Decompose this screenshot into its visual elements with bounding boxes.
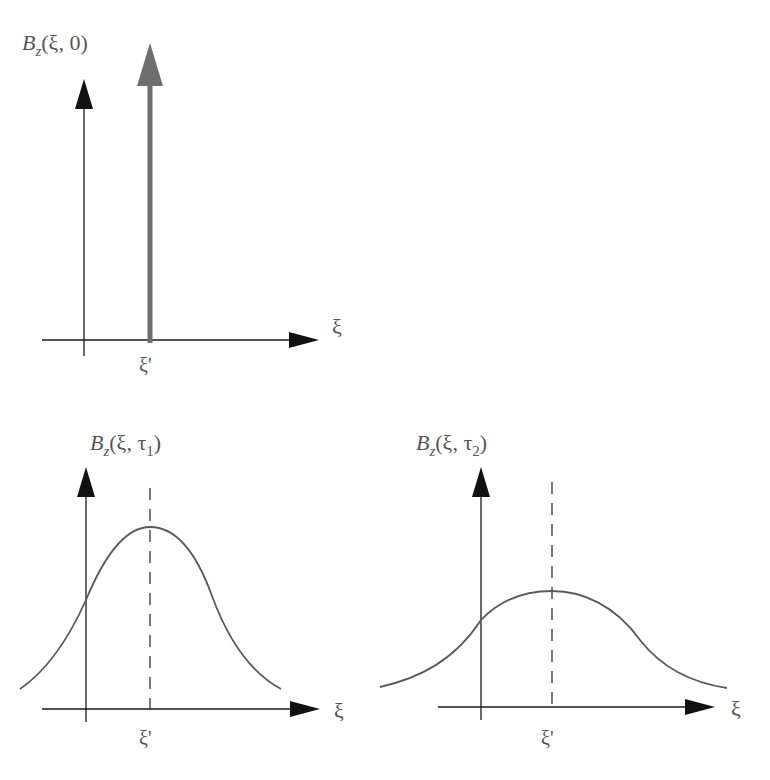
panel-tau1-ylabel: Bz(ξ, τ1) <box>90 430 161 459</box>
x-axis-label: ξ <box>731 696 741 721</box>
y-axis-arrowhead-icon <box>472 467 490 497</box>
panel-tau1: Bz(ξ, τ1) ξ ξ' <box>20 430 344 749</box>
x-axis-arrowhead-icon <box>290 701 320 717</box>
ylabel-time: τ <box>463 430 472 455</box>
panel-initial: Bz(ξ, 0) ξ ξ' <box>22 30 342 376</box>
delta-spike-arrowhead-icon <box>137 43 163 86</box>
ylabel-args: (ξ, <box>109 430 137 455</box>
y-axis-arrowhead-icon <box>77 467 95 497</box>
ylabel-time: τ <box>137 430 146 455</box>
ylabel-args: (ξ, <box>435 430 463 455</box>
panel-tau2: Bz(ξ, τ2) ξ ξ' <box>380 430 741 749</box>
panel-initial-ylabel: Bz(ξ, 0) <box>22 30 88 59</box>
ylabel-symbol: B <box>416 430 429 455</box>
ylabel-time: 0 <box>69 30 80 55</box>
ylabel-symbol: B <box>22 30 35 55</box>
x-axis-label: ξ <box>334 698 344 723</box>
ylabel-close: ) <box>154 430 161 455</box>
y-axis-arrowhead-icon <box>75 79 93 109</box>
ylabel-close: ) <box>480 430 487 455</box>
xi-prime-tick-label: ξ' <box>139 727 152 749</box>
x-axis-label: ξ <box>332 314 342 339</box>
ylabel-time-subscript: 1 <box>146 443 154 459</box>
gaussian-curve-wide <box>380 591 727 688</box>
x-axis-arrowhead-icon <box>685 699 715 715</box>
ylabel-time-subscript: 2 <box>472 443 480 459</box>
ylabel-close: ) <box>80 30 87 55</box>
x-axis-arrowhead-icon <box>289 332 319 348</box>
ylabel-args: (ξ, <box>41 30 69 55</box>
xi-prime-tick-label: ξ' <box>139 354 152 376</box>
panel-tau2-ylabel: Bz(ξ, τ2) <box>416 430 487 459</box>
xi-prime-tick-label: ξ' <box>541 727 554 749</box>
ylabel-symbol: B <box>90 430 103 455</box>
diffusion-diagram: Bz(ξ, 0) ξ ξ' Bz(ξ, τ1) ξ ξ' <box>0 0 770 780</box>
